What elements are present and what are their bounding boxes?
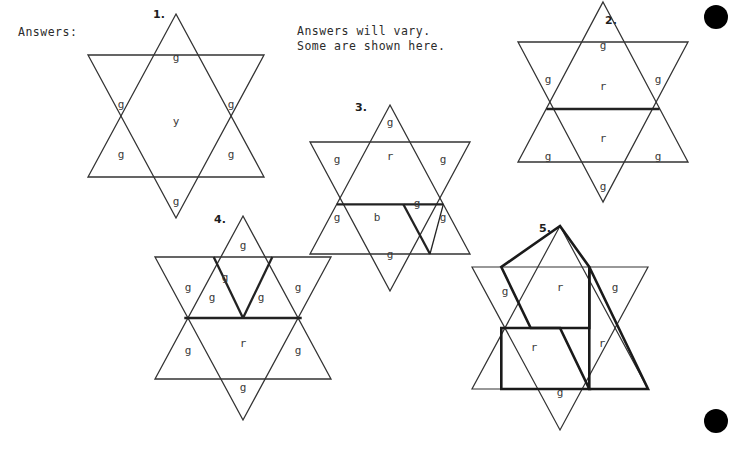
star-4-cell-label: g <box>295 344 302 357</box>
star-3-cell-label: r <box>387 150 394 163</box>
star-3-cell-label: g <box>334 153 341 166</box>
star-1-cell-label: y <box>173 115 180 128</box>
answers-heading: Answers: <box>18 25 77 39</box>
star-5-cell-label: r <box>599 337 606 350</box>
star-2-down-triangle <box>518 42 688 202</box>
star-4-cell-label: r <box>240 337 247 350</box>
star-4-cell-label: g <box>222 271 229 284</box>
star-4-cell-label: g <box>185 281 192 294</box>
star-3-cell-label: b <box>374 211 381 224</box>
star-5-cell-label: g <box>557 386 564 399</box>
star-1-cell-label: g <box>173 195 180 208</box>
star-3-cell-label: g <box>334 211 341 224</box>
star-5-cell-label: g <box>612 281 619 294</box>
registration-dot-top-right <box>704 5 728 29</box>
star-4-cell-label: g <box>185 344 192 357</box>
star-4-cell-label: g <box>258 291 265 304</box>
star-4-upper-cut-left <box>214 257 243 318</box>
star-1-cell-label: g <box>228 98 235 111</box>
star-1-cell-label: g <box>118 98 125 111</box>
star-3-inner-cut-a <box>403 204 430 254</box>
star-2-cell-label: g <box>655 73 662 86</box>
star-5-figure: grgrrg <box>472 226 648 430</box>
registration-dot-bottom-right <box>704 409 728 433</box>
star-2-cell-label: g <box>655 150 662 163</box>
note-line-2: Some are shown here. <box>297 39 445 54</box>
star-3-cell-label: g <box>414 197 421 210</box>
star-1-up-triangle <box>88 14 264 177</box>
star-5-up-triangle <box>472 226 648 389</box>
star-5-region-r-right <box>589 267 648 389</box>
star-2-cell-label: g <box>545 150 552 163</box>
note-line-1: Answers will vary. <box>297 24 431 39</box>
star-3-cell-label: g <box>387 116 394 129</box>
star-4-upper-cut-right <box>243 257 272 318</box>
star-3-cell-label: g <box>387 248 394 261</box>
star-1-cell-label: g <box>118 148 125 161</box>
star-5-cell-label: g <box>502 285 509 298</box>
star-3-cell-label: g <box>440 153 447 166</box>
star-2-cell-label: g <box>600 180 607 193</box>
star-2-figure: ggrggrgg <box>518 2 688 202</box>
star-4-cell-label: g <box>295 281 302 294</box>
worksheet-page: Answers: Answers will vary. Some are sho… <box>0 0 736 450</box>
star-1-down-triangle <box>88 55 264 218</box>
star-2-cell-label: r <box>600 80 607 93</box>
star-2-cell-label: g <box>600 39 607 52</box>
star-4-cell-label: g <box>209 291 216 304</box>
star-4-figure: gggggggrgg <box>155 216 331 420</box>
star-2-cell-label: r <box>600 132 607 145</box>
star-5-cell-label: r <box>531 341 538 354</box>
star-3-figure: ggrggbggg <box>310 105 470 291</box>
star-1-cell-label: g <box>173 51 180 64</box>
star-5-region-r-lower-left <box>501 328 589 389</box>
star-4-cell-label: g <box>240 381 247 394</box>
star-5-region-r-top <box>501 226 589 328</box>
star-1-figure: gggyggg <box>88 14 264 218</box>
star-1-cell-label: g <box>228 148 235 161</box>
star-5-cell-label: r <box>557 281 564 294</box>
star-3-cell-label: g <box>440 211 447 224</box>
star-2-cell-label: g <box>545 73 552 86</box>
star-4-cell-label: g <box>240 239 247 252</box>
